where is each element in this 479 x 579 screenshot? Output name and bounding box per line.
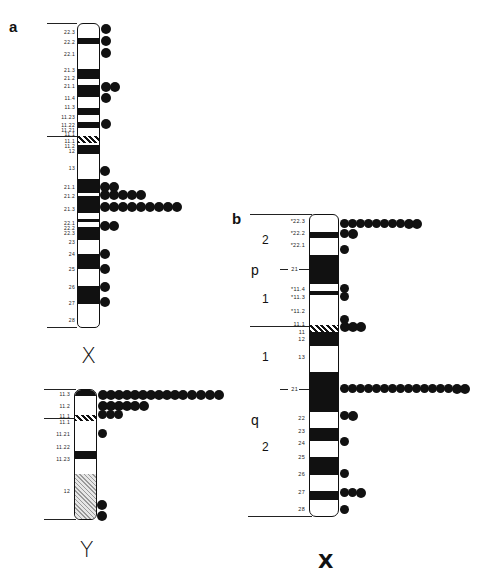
band-label: 11.22 bbox=[50, 444, 70, 450]
band-label: *22.1 bbox=[280, 242, 305, 248]
chromosome-x-ideogram bbox=[77, 23, 100, 328]
panel-a-letter: a bbox=[9, 18, 17, 35]
region-label-q1: 1 bbox=[262, 350, 269, 364]
band-label: 11.3 bbox=[50, 391, 70, 397]
region-label-p2: 2 bbox=[262, 233, 269, 247]
bottom-line bbox=[248, 516, 312, 517]
band-label: 21.1 bbox=[55, 83, 75, 89]
band-label: 21.1 bbox=[55, 184, 75, 190]
band-label: 23 bbox=[280, 428, 305, 434]
band-label: 21.3 bbox=[55, 206, 75, 212]
band-label: 27 bbox=[280, 489, 305, 495]
top-line bbox=[250, 214, 312, 215]
band-tick bbox=[299, 269, 309, 270]
band-tick bbox=[299, 389, 309, 390]
band-label: 12 bbox=[50, 488, 70, 494]
band-label: 21 bbox=[288, 266, 298, 272]
band-label: 28 bbox=[280, 506, 305, 512]
band-label: 11.23 bbox=[55, 114, 75, 120]
band-label: 12 bbox=[55, 148, 75, 154]
top-line bbox=[44, 389, 76, 390]
bottom-line bbox=[44, 519, 76, 520]
band-label: 24 bbox=[280, 440, 305, 446]
band-label: 22.1 bbox=[55, 51, 75, 57]
band-label: 28 bbox=[55, 317, 75, 323]
band-label: 11.2 bbox=[50, 403, 70, 409]
band-label: 27 bbox=[55, 300, 75, 306]
band-label: *22.3 bbox=[280, 218, 305, 224]
band-label: 24 bbox=[55, 251, 75, 257]
band-label: 21 bbox=[288, 386, 298, 392]
band-label: 11.4 bbox=[55, 95, 75, 101]
band-label: 12 bbox=[280, 336, 305, 342]
band-tick bbox=[280, 269, 288, 270]
band-label: 11.1 bbox=[50, 419, 70, 425]
band-label: 22.2 bbox=[55, 39, 75, 45]
band-label: 11.23 bbox=[50, 456, 70, 462]
band-label: 11.21 bbox=[50, 431, 70, 437]
band-label: 11.3 bbox=[55, 104, 75, 110]
band-label: 11 bbox=[280, 329, 305, 335]
band-label: 21.2 bbox=[55, 75, 75, 81]
centromere-line-top bbox=[47, 23, 77, 24]
band-label: 22.3 bbox=[55, 230, 75, 236]
arm-label-p: p bbox=[251, 262, 259, 278]
band-label: *11.3 bbox=[280, 294, 305, 300]
chromosome-y-label: Y bbox=[80, 537, 93, 562]
chromosome-x-label: X bbox=[318, 549, 333, 573]
band-label: 26 bbox=[55, 284, 75, 290]
band-label: 26 bbox=[280, 471, 305, 477]
arm-label-q: q bbox=[251, 412, 259, 428]
chromosome-x-label: X bbox=[81, 343, 96, 368]
band-label: *11.4 bbox=[280, 286, 305, 292]
band-label: 21.3 bbox=[55, 67, 75, 73]
band-label: *11.2 bbox=[280, 308, 305, 314]
band-label: 25 bbox=[280, 454, 305, 460]
band-label: 23 bbox=[55, 239, 75, 245]
panel-b-letter: b bbox=[232, 210, 241, 227]
band-label: 21.2 bbox=[55, 193, 75, 199]
band-label: 13 bbox=[280, 354, 305, 360]
band-label: 25 bbox=[55, 266, 75, 272]
bottom-line bbox=[47, 327, 77, 328]
band-label: 22.3 bbox=[55, 29, 75, 35]
band-label: 13 bbox=[55, 165, 75, 171]
band-tick bbox=[280, 389, 288, 390]
region-label-q2: 2 bbox=[262, 440, 269, 454]
band-label: 11.1 bbox=[280, 321, 305, 327]
chromosome-y-ideogram bbox=[74, 389, 97, 520]
band-label: *22.2 bbox=[280, 230, 305, 236]
band-label: 22 bbox=[280, 415, 305, 421]
band-label: 11.1 bbox=[55, 131, 75, 137]
region-label-p1: 1 bbox=[262, 292, 269, 306]
chromosome-x-ideogram bbox=[309, 214, 339, 517]
